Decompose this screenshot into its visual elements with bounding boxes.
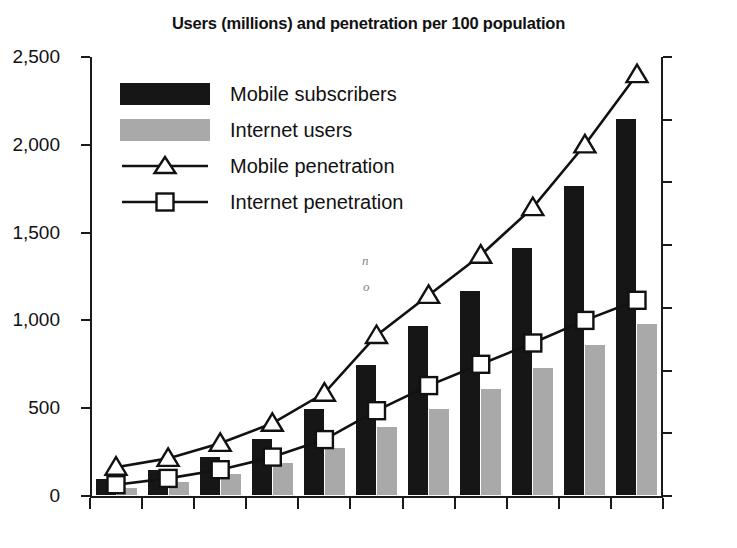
- legend-swatch: [120, 83, 210, 105]
- left-tick-label: 2,500: [12, 47, 60, 66]
- x-tick-mark: [245, 498, 247, 509]
- x-tick-mark: [349, 498, 351, 509]
- line-square-marker-icon: [120, 184, 216, 220]
- legend-item[interactable]: Internet penetration: [120, 184, 420, 220]
- marker-square-internet-penetration: [629, 292, 646, 309]
- chart-figure: Users (millions) and penetration per 100…: [0, 0, 737, 548]
- marker-square-internet-penetration: [212, 461, 229, 478]
- marker-triangle-mobile-penetration: [418, 285, 439, 303]
- marker-square-internet-penetration: [472, 356, 489, 373]
- marker-triangle-mobile-penetration: [574, 135, 595, 153]
- left-tick-mark: [81, 56, 90, 58]
- legend-item[interactable]: Mobile subscribers: [120, 76, 420, 112]
- gray-bar-swatch-icon: [120, 112, 216, 148]
- right-tick-mark: [663, 495, 672, 497]
- line-triangle-marker-icon: [120, 148, 216, 184]
- left-tick-mark: [81, 407, 90, 409]
- marker-square-internet-penetration: [108, 476, 125, 493]
- x-tick-mark: [610, 498, 612, 509]
- left-tick-label: 1,500: [12, 223, 60, 242]
- right-tick-mark: [663, 244, 672, 246]
- chart-legend: Mobile subscribersInternet usersMobile p…: [120, 76, 420, 220]
- right-tick-mark: [663, 181, 672, 183]
- marker-triangle-mobile-penetration: [262, 413, 283, 431]
- marker-square-internet-penetration: [524, 335, 541, 352]
- x-tick-mark: [506, 498, 508, 509]
- x-tick-mark: [402, 498, 404, 509]
- marker-triangle-mobile-penetration: [627, 65, 648, 83]
- black-bar-swatch-icon: [120, 76, 216, 112]
- x-tick-mark: [297, 498, 299, 509]
- left-tick-label: 500: [28, 398, 60, 417]
- marker-square-internet-penetration: [576, 312, 593, 329]
- marker-square-internet-penetration: [316, 431, 333, 448]
- left-tick-mark: [81, 495, 90, 497]
- x-tick-mark: [558, 498, 560, 509]
- legend-label: Mobile subscribers: [216, 83, 397, 106]
- legend-swatch: [120, 119, 210, 141]
- left-tick-mark: [81, 232, 90, 234]
- legend-label: Internet users: [216, 119, 352, 142]
- marker-triangle-mobile-penetration: [366, 326, 387, 344]
- right-tick-mark: [663, 307, 672, 309]
- right-tick-mark: [663, 119, 672, 121]
- legend-item[interactable]: Internet users: [120, 112, 420, 148]
- x-tick-mark: [454, 498, 456, 509]
- left-tick-mark: [81, 144, 90, 146]
- right-tick-mark: [663, 370, 672, 372]
- chart-title: Users (millions) and penetration per 100…: [0, 14, 737, 33]
- x-tick-mark: [141, 498, 143, 509]
- right-tick-mark: [663, 432, 672, 434]
- right-tick-mark: [663, 56, 672, 58]
- legend-label: Internet penetration: [216, 191, 403, 214]
- marker-triangle-mobile-penetration: [210, 433, 231, 451]
- marker-square-internet-penetration: [368, 402, 385, 419]
- marker-square-internet-penetration: [160, 470, 177, 487]
- x-tick-mark: [662, 498, 664, 509]
- marker-square-internet-penetration: [420, 377, 437, 394]
- x-tick-mark: [193, 498, 195, 509]
- marker-square-internet-penetration: [264, 449, 281, 466]
- left-tick-label: 2,000: [12, 135, 60, 154]
- left-tick-mark: [81, 319, 90, 321]
- legend-label: Mobile penetration: [216, 155, 395, 178]
- legend-item[interactable]: Mobile penetration: [120, 148, 420, 184]
- x-tick-mark: [89, 498, 91, 509]
- left-tick-label: 0: [49, 486, 60, 505]
- left-tick-label: 1,000: [12, 310, 60, 329]
